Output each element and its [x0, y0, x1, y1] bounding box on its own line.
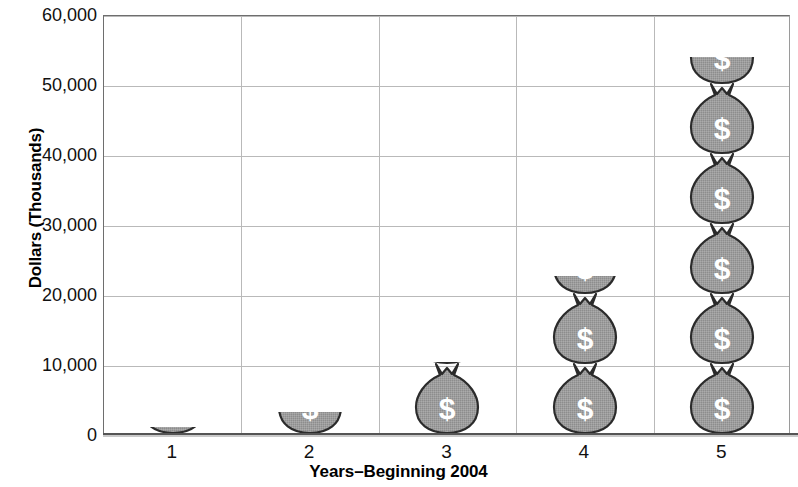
y-tick-label: 50,000: [5, 76, 97, 94]
bar-clip: $$: [414, 362, 480, 436]
money-bag-icon: $: [689, 82, 755, 155]
y-tick-label: 40,000: [5, 146, 97, 164]
bar-column[interactable]: $$: [379, 16, 516, 435]
money-bag-icon: $: [552, 362, 618, 435]
svg-text:$: $: [714, 112, 731, 145]
money-bag-icon: $: [414, 362, 480, 435]
money-bag-stack: $$$$$$: [689, 57, 755, 435]
y-tick-label: 10,000: [5, 356, 97, 374]
money-bag-icon: $: [689, 222, 755, 295]
bar[interactable]: $$$: [552, 276, 618, 435]
x-tick-label: 5: [661, 441, 781, 463]
x-tick-label: 4: [524, 441, 644, 463]
plot-area: $$$$$$$$$$$$$: [103, 15, 790, 435]
money-bag-stack: $$$: [552, 276, 618, 435]
money-bag-icon: $: [689, 362, 755, 435]
bar-column[interactable]: $: [241, 16, 378, 435]
x-axis-baseline: [103, 433, 798, 437]
money-bag-icon: $: [689, 292, 755, 365]
y-tick-label: 30,000: [5, 216, 97, 234]
x-axis-title: Years–Beginning 2004: [0, 462, 797, 482]
money-bag-icon: $: [277, 412, 343, 435]
svg-text:$: $: [714, 392, 731, 425]
svg-text:$: $: [714, 322, 731, 355]
x-tick-label: 3: [387, 441, 507, 463]
svg-text:$: $: [714, 182, 731, 215]
bar-clip: $: [277, 412, 343, 435]
bar-column[interactable]: $$$$$$: [654, 16, 791, 435]
y-tick-label: 0: [5, 426, 97, 444]
bar[interactable]: $$$$$$: [689, 57, 755, 435]
svg-text:$: $: [439, 392, 456, 425]
svg-text:$: $: [714, 57, 731, 75]
money-bag-icon: $: [689, 57, 755, 85]
bar-clip: $$$: [552, 276, 618, 435]
svg-text:$: $: [577, 392, 594, 425]
bar-column[interactable]: $$$: [516, 16, 653, 435]
svg-text:$: $: [302, 412, 319, 425]
x-tick-label: 2: [249, 441, 369, 463]
svg-text:$: $: [714, 252, 731, 285]
bar[interactable]: $: [277, 412, 343, 435]
money-bag-stack: $$: [414, 362, 480, 436]
y-axis-tick-labels: 60,00050,00040,00030,00020,00010,0000: [0, 0, 97, 487]
y-tick-label: 20,000: [5, 286, 97, 304]
bar[interactable]: $$: [414, 362, 480, 436]
money-bag-stack: $: [277, 412, 343, 435]
x-tick-label: 1: [112, 441, 232, 463]
bar-clip: $$$$$$: [689, 57, 755, 435]
svg-text:$: $: [577, 322, 594, 355]
y-tick-label: 60,000: [5, 6, 97, 24]
money-bag-icon: $: [689, 152, 755, 225]
svg-text:$: $: [577, 276, 594, 285]
money-bag-icon: $: [552, 292, 618, 365]
bar-column[interactable]: $: [104, 16, 241, 435]
